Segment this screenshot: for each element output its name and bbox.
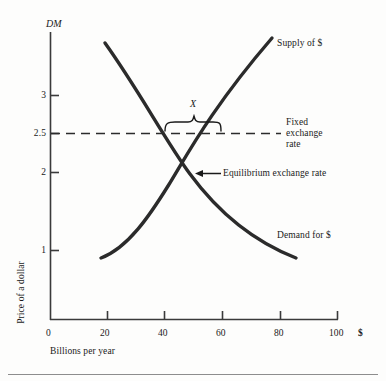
x-axis-title: Billions per year <box>50 346 115 357</box>
x-tick-label-20: 20 <box>100 328 110 339</box>
fixed-exchange-rate-label-line3: rate <box>286 139 301 150</box>
equilibrium-arrow <box>195 170 221 177</box>
y-tick-label-1: 1 <box>28 245 46 256</box>
y-tick-label-2: 2 <box>28 167 46 178</box>
supply-curve <box>101 38 272 258</box>
x-axis-unit-label: $ <box>358 328 363 339</box>
fixed-exchange-rate-label-line2: exchange <box>286 128 323 139</box>
figure-container: DM 3 2.5 2 1 0 20 40 60 80 100 $ Billion… <box>0 0 386 381</box>
page-bottom-rule <box>8 374 378 375</box>
supply-curve-label: Supply of $ <box>277 38 322 49</box>
x-tick-label-60: 60 <box>216 328 226 339</box>
y-axis-unit-label: DM <box>46 18 62 29</box>
excess-supply-brace <box>165 116 221 131</box>
x-tick-label-40: 40 <box>158 328 168 339</box>
demand-curve <box>105 43 296 258</box>
x-axis-ticks <box>108 311 281 320</box>
demand-curve-label: Demand for $ <box>277 230 331 241</box>
y-tick-label-2.5: 2.5 <box>20 128 46 139</box>
equilibrium-exchange-rate-label: Equilibrium exchange rate <box>223 168 326 179</box>
x-tick-label-0: 0 <box>46 328 51 339</box>
y-axis-title: Price of a dollar <box>16 248 27 338</box>
y-axis-ticks <box>50 96 59 251</box>
fixed-exchange-rate-label-line1: Fixed <box>286 117 308 128</box>
excess-supply-gap-label: X <box>190 98 196 109</box>
x-tick-label-80: 80 <box>274 328 284 339</box>
exchange-rate-supply-demand-chart <box>0 0 386 381</box>
y-tick-label-3: 3 <box>28 90 46 101</box>
x-tick-label-100: 100 <box>329 328 344 339</box>
